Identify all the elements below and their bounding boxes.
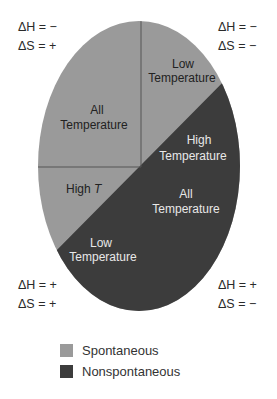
delta-h-bottom-right: ΔH = + bbox=[218, 276, 257, 295]
legend: Spontaneous Nonspontaneous bbox=[60, 340, 180, 382]
delta-s-top-left: ΔS = + bbox=[18, 37, 57, 56]
corner-bottom-left: ΔH = + ΔS = + bbox=[18, 276, 57, 314]
legend-label: Spontaneous bbox=[82, 343, 159, 358]
region-right-dark-label-2: Temperature bbox=[159, 149, 227, 163]
delta-h-top-right: ΔH = − bbox=[218, 18, 257, 37]
region-upper-right-label-2: Temperature bbox=[148, 71, 216, 85]
nonspontaneous-swatch bbox=[60, 365, 73, 378]
legend-label: Nonspontaneous bbox=[82, 364, 180, 379]
region-upper-left-label: All bbox=[90, 103, 103, 117]
delta-s-bottom-left: ΔS = + bbox=[18, 295, 57, 314]
delta-s-top-right: ΔS = − bbox=[218, 37, 257, 56]
corner-bottom-right: ΔH = + ΔS = − bbox=[218, 276, 257, 314]
corner-top-left: ΔH = − ΔS = + bbox=[18, 18, 57, 56]
region-upper-left-label-2: Temperature bbox=[60, 118, 128, 132]
region-lower-left-label: Low bbox=[90, 236, 112, 250]
corner-top-right: ΔH = − ΔS = − bbox=[218, 18, 257, 56]
delta-h-bottom-left: ΔH = + bbox=[18, 276, 57, 295]
delta-s-bottom-right: ΔS = − bbox=[218, 295, 257, 314]
region-upper-right-label: Low bbox=[172, 57, 194, 71]
spontaneous-swatch bbox=[60, 344, 73, 357]
region-left-light-label: High T bbox=[66, 182, 103, 196]
region-lower-right-label: All bbox=[179, 187, 192, 201]
legend-item-spontaneous: Spontaneous bbox=[60, 340, 180, 361]
delta-h-top-left: ΔH = − bbox=[18, 18, 57, 37]
region-right-dark-label: High bbox=[187, 133, 212, 147]
legend-item-nonspontaneous: Nonspontaneous bbox=[60, 361, 180, 382]
region-lower-left-label-2: Temperature bbox=[69, 250, 137, 264]
region-lower-right-label-2: Temperature bbox=[152, 202, 220, 216]
